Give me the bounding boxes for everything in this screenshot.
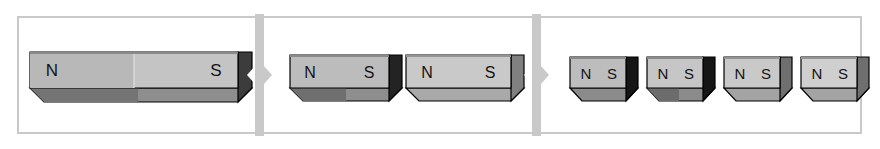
magnet-front-face (647, 57, 703, 88)
arrow-notch-inset (247, 66, 255, 84)
magnet-half-left: N S (290, 55, 402, 103)
arrow-panel1-to-panel2 (255, 14, 264, 136)
arrow-head-icon (264, 66, 272, 84)
magnet-quarter-1-south-label: S (607, 65, 617, 82)
magnet-quarter-2-north-label: N (658, 65, 669, 82)
magnet-quarter-3: N S (724, 57, 792, 103)
magnet-quarter-4: N S (801, 57, 869, 103)
magnet-quarter-2: N S (647, 57, 715, 103)
arrow-panel2-to-panel3 (532, 14, 541, 136)
magnet-quarter-4-south-label: S (838, 65, 848, 82)
magnet-quarter-4-north-label: N (812, 65, 823, 82)
magnet-front-face (801, 57, 857, 88)
arrow-notch-inset (524, 66, 532, 84)
magnet-whole-south-label: S (210, 61, 221, 80)
arrow-head-icon (541, 66, 549, 84)
magnet-end-face (626, 57, 638, 101)
magnet-quarter-3-south-label: S (761, 65, 771, 82)
magnet-end-face (389, 55, 402, 101)
magnet-subdivision-figure: N S N S N S (0, 0, 880, 149)
magnet-half-right-north-label: N (421, 64, 433, 81)
magnet-end-face (511, 55, 524, 101)
magnet-half-right-south-label: S (485, 64, 496, 81)
magnet-whole-north-label: N (46, 61, 58, 80)
magnet-quarter-1: N S (570, 57, 638, 103)
magnet-end-face (780, 57, 792, 101)
magnet-bottom-face (406, 88, 524, 101)
magnet-end-face (857, 57, 869, 101)
magnet-quarter-3-north-label: N (735, 65, 746, 82)
magnet-half-left-north-label: N (304, 64, 316, 81)
magnet-bottom-face-shade (30, 88, 138, 102)
magnet-quarter-2-south-label: S (684, 65, 694, 82)
magnet-bottom-face-shade (290, 88, 346, 101)
magnet-half-right: N S (406, 55, 524, 103)
magnet-half-left-south-label: S (364, 64, 375, 81)
magnet-front-face (570, 57, 626, 88)
magnet-end-face (703, 57, 715, 101)
magnet-bottom-face-shade (647, 88, 679, 101)
magnet-quarter-1-north-label: N (581, 65, 592, 82)
magnet-whole: N S (30, 52, 252, 104)
magnet-front-face (724, 57, 780, 88)
